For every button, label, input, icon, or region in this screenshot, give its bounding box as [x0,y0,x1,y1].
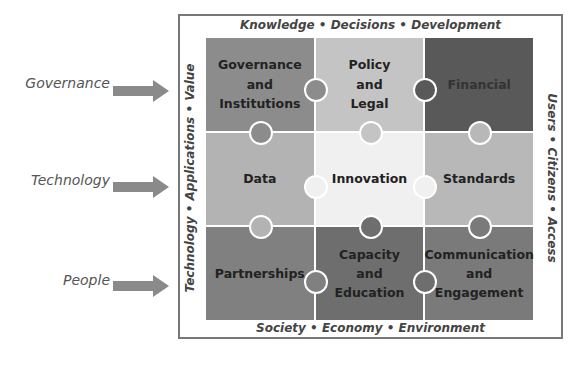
piece-label: Standards [443,169,515,188]
arrow-right-icon [113,80,169,102]
puzzle-connector [359,215,383,239]
puzzle-connector [249,121,273,145]
puzzle-piece-financial: Financial [425,38,533,131]
puzzle-piece-capacity-and-education: CapacityandEducation [316,227,424,320]
piece-label: Innovation [332,169,407,188]
piece-label: Partnerships [215,264,305,283]
arrow-right-icon [113,176,169,198]
puzzle-piece-innovation: Innovation [316,133,424,226]
puzzle-piece-policy-and-legal: PolicyandLegal [316,38,424,131]
puzzle-piece-data: Data [206,133,314,226]
puzzle-piece-standards: Standards [425,133,533,226]
edge-label-top: Knowledge • Decisions • Development [180,18,561,32]
puzzle-piece-governance-and-institutions: GovernanceandInstitutions [206,38,314,131]
row-label-governance: Governance [0,75,110,91]
row-label-people: People [0,272,110,288]
edge-label-left: Technology • Applications • Value [183,28,197,328]
piece-label: CapacityandEducation [334,245,404,303]
row-label-technology: Technology [0,172,110,188]
piece-label: Data [243,169,276,188]
piece-label: CommunicationandEngagement [424,245,534,303]
edge-label-bottom: Society • Economy • Environment [180,321,561,335]
puzzle-piece-partnerships: Partnerships [206,227,314,320]
piece-label: Financial [447,75,510,94]
puzzle-connector [468,121,492,145]
puzzle-frame: Knowledge • Decisions • Development Soci… [178,14,563,339]
puzzle-grid: GovernanceandInstitutionsPolicyandLegalF… [206,38,535,322]
piece-label: GovernanceandInstitutions [218,55,302,113]
puzzle-connector [413,78,437,102]
piece-label: PolicyandLegal [349,55,391,113]
puzzle-connector [304,270,328,294]
puzzle-connector [249,215,273,239]
arrow-right-icon [113,275,169,297]
edge-label-right: Users • Citizens • Access [545,28,559,328]
puzzle-piece-communication-and-engagement: CommunicationandEngagement [425,227,533,320]
puzzle-connector [304,175,328,199]
puzzle-connector [304,78,328,102]
puzzle-connector [359,121,383,145]
